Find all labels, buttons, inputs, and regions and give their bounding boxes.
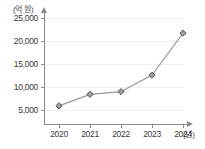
data-point-2021 — [87, 91, 93, 97]
series-layer — [0, 0, 205, 149]
line-chart: (억 원) (년) 25,000 20,000 15,000 10,000 5,… — [0, 0, 205, 149]
data-point-2022 — [118, 89, 124, 95]
data-point-2020 — [56, 103, 62, 109]
series-markers — [56, 30, 186, 109]
